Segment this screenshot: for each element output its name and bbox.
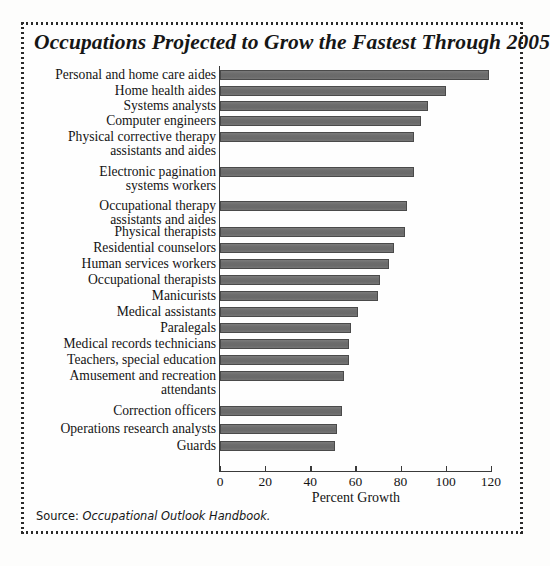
category-label: Manicurists: [152, 289, 216, 303]
bar: [220, 291, 378, 301]
bar: [220, 339, 349, 349]
bar: [220, 70, 489, 80]
bar: [220, 275, 380, 285]
bar: [220, 307, 358, 317]
x-axis-tick: [265, 466, 266, 472]
bar: [220, 101, 428, 111]
x-axis-tick-label: 40: [304, 474, 318, 490]
category-label: Operations research analysts: [60, 422, 216, 436]
bar: [220, 201, 407, 211]
bar: [220, 243, 394, 253]
x-axis-tick-label: 0: [217, 474, 224, 490]
x-axis-tick: [446, 466, 447, 472]
x-axis-tick: [220, 466, 221, 472]
category-label: Home health aides: [115, 84, 216, 98]
x-axis-title: Percent Growth: [220, 490, 492, 506]
bar-chart-plot: Personal and home care aidesHome health …: [0, 0, 550, 566]
category-label: Physical corrective therapy assistants a…: [68, 130, 216, 159]
x-axis-tick-label: 20: [258, 474, 272, 490]
category-label: Correction officers: [113, 404, 216, 418]
x-axis-tick: [401, 466, 402, 472]
category-label: Electronic pagination systems workers: [99, 165, 216, 194]
source-note: Source: Occupational Outlook Handbook.: [36, 509, 270, 523]
bar: [220, 227, 405, 237]
bar: [220, 371, 344, 381]
bar: [220, 406, 342, 416]
bar: [220, 441, 335, 451]
category-label: Amusement and recreation attendants: [70, 369, 216, 398]
x-axis-tick: [355, 466, 356, 472]
category-label: Personal and home care aides: [55, 68, 216, 82]
category-label: Computer engineers: [106, 114, 216, 128]
x-axis-tick-label: 120: [481, 474, 501, 490]
bar: [220, 355, 349, 365]
category-label: Human services workers: [82, 257, 216, 271]
category-label: Guards: [177, 439, 216, 453]
category-label: Systems analysts: [123, 99, 216, 113]
x-axis-tick: [491, 466, 492, 472]
bar: [220, 323, 351, 333]
source-label: Source:: [36, 509, 83, 523]
x-axis-tick-label: 80: [394, 474, 408, 490]
x-axis-tick-label: 60: [349, 474, 363, 490]
category-label: Teachers, special education: [67, 353, 216, 367]
source-reference: Occupational Outlook Handbook.: [83, 509, 271, 523]
category-label: Physical therapists: [114, 225, 216, 239]
bar: [220, 86, 446, 96]
category-label: Residential counselors: [93, 241, 216, 255]
bar: [220, 424, 337, 434]
category-label: Medical records technicians: [64, 337, 217, 351]
bar: [220, 132, 414, 142]
bar: [220, 167, 414, 177]
category-label: Paralegals: [160, 321, 216, 335]
x-axis-tick: [310, 466, 311, 472]
bar: [220, 116, 421, 126]
category-label: Occupational therapists: [88, 273, 216, 287]
category-label: Medical assistants: [117, 305, 216, 319]
bar: [220, 259, 389, 269]
x-axis-tick-label: 100: [436, 474, 456, 490]
